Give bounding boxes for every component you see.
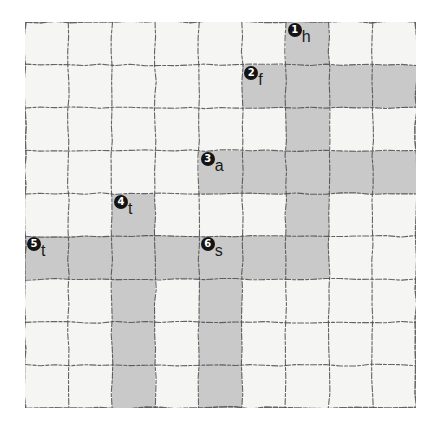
grid-cell-shaded[interactable] (199, 322, 242, 365)
grid-cell-empty[interactable] (25, 108, 68, 151)
grid-cell-shaded[interactable] (329, 65, 372, 108)
grid-cell-empty[interactable] (373, 365, 416, 408)
grid-cell-shaded[interactable] (112, 365, 155, 408)
grid-cell-shaded[interactable] (112, 279, 155, 322)
grid-cell-empty[interactable] (199, 108, 242, 151)
grid-cell-empty[interactable] (329, 22, 372, 65)
grid-cell-empty[interactable] (199, 65, 242, 108)
grid-row (25, 108, 416, 151)
marker-letter: s (215, 243, 223, 259)
grid-cell-shaded[interactable] (155, 236, 198, 279)
grid-cell-empty[interactable] (68, 22, 111, 65)
grid-cell-empty[interactable] (155, 322, 198, 365)
cell-marker-3[interactable]: 3a (201, 152, 224, 174)
grid-cell-shaded[interactable] (373, 65, 416, 108)
grid-cell-empty[interactable] (242, 279, 285, 322)
grid-cell-empty[interactable] (112, 108, 155, 151)
grid-cell-container: 1h2f3a4t5t6s (25, 22, 416, 408)
grid-cell-shaded[interactable] (286, 236, 329, 279)
grid-cell-shaded[interactable]: 5t (25, 236, 68, 279)
marker-letter: a (215, 158, 224, 174)
grid-cell-empty[interactable] (68, 322, 111, 365)
grid-cell-empty[interactable] (199, 194, 242, 237)
grid-board[interactable]: 1h2f3a4t5t6s (25, 22, 416, 408)
grid-cell-empty[interactable] (155, 22, 198, 65)
grid-cell-empty[interactable] (112, 151, 155, 194)
grid-cell-shaded[interactable] (68, 236, 111, 279)
grid-cell-shaded[interactable] (286, 151, 329, 194)
marker-number-badge: 5 (27, 237, 41, 251)
grid-cell-empty[interactable] (373, 322, 416, 365)
marker-number-badge: 4 (114, 195, 128, 209)
grid-cell-empty[interactable] (373, 279, 416, 322)
grid-cell-empty[interactable] (373, 108, 416, 151)
grid-cell-empty[interactable] (155, 151, 198, 194)
grid-cell-empty[interactable] (373, 236, 416, 279)
grid-cell-empty[interactable] (155, 194, 198, 237)
grid-cell-empty[interactable] (286, 365, 329, 408)
grid-cell-shaded[interactable] (242, 151, 285, 194)
grid-row (25, 322, 416, 365)
grid-cell-empty[interactable] (25, 279, 68, 322)
cell-marker-6[interactable]: 6s (201, 237, 223, 259)
marker-letter: t (128, 201, 132, 217)
grid-row (25, 279, 416, 322)
cell-marker-5[interactable]: 5t (27, 237, 45, 259)
grid-cell-empty[interactable] (155, 65, 198, 108)
grid-cell-empty[interactable] (242, 365, 285, 408)
grid-cell-empty[interactable] (68, 365, 111, 408)
grid-cell-empty[interactable] (329, 236, 372, 279)
grid-cell-empty[interactable] (199, 22, 242, 65)
grid-cell-shaded[interactable] (199, 365, 242, 408)
grid-cell-shaded[interactable] (242, 236, 285, 279)
grid-cell-empty[interactable] (329, 322, 372, 365)
grid-cell-shaded[interactable] (112, 322, 155, 365)
cell-marker-1[interactable]: 1h (288, 23, 311, 45)
grid-cell-empty[interactable] (155, 365, 198, 408)
grid-cell-empty[interactable] (329, 365, 372, 408)
grid-cell-empty[interactable] (242, 22, 285, 65)
grid-cell-empty[interactable] (68, 108, 111, 151)
grid-cell-empty[interactable] (25, 365, 68, 408)
grid-cell-empty[interactable] (68, 151, 111, 194)
grid-row: 4t (25, 194, 416, 237)
grid-cell-empty[interactable] (112, 65, 155, 108)
grid-cell-empty[interactable] (286, 322, 329, 365)
grid-cell-empty[interactable] (242, 108, 285, 151)
grid-cell-empty[interactable] (112, 22, 155, 65)
grid-cell-shaded[interactable] (373, 151, 416, 194)
grid-cell-empty[interactable] (68, 65, 111, 108)
grid-cell-empty[interactable] (155, 279, 198, 322)
grid-cell-shaded[interactable] (199, 279, 242, 322)
grid-cell-empty[interactable] (329, 108, 372, 151)
grid-cell-empty[interactable] (68, 194, 111, 237)
grid-cell-empty[interactable] (286, 279, 329, 322)
grid-cell-shaded[interactable]: 3a (199, 151, 242, 194)
grid-cell-shaded[interactable] (286, 108, 329, 151)
grid-cell-shaded[interactable]: 2f (242, 65, 285, 108)
grid-cell-empty[interactable] (25, 194, 68, 237)
grid-cell-empty[interactable] (25, 322, 68, 365)
grid-cell-empty[interactable] (68, 279, 111, 322)
cell-marker-4[interactable]: 4t (114, 195, 132, 217)
grid-cell-shaded[interactable]: 4t (112, 194, 155, 237)
grid-cell-empty[interactable] (329, 279, 372, 322)
grid-cell-empty[interactable] (25, 22, 68, 65)
grid-cell-empty[interactable] (25, 151, 68, 194)
grid-cell-empty[interactable] (242, 194, 285, 237)
grid-cell-shaded[interactable] (112, 236, 155, 279)
cell-marker-2[interactable]: 2f (244, 66, 262, 88)
grid-cell-empty[interactable] (155, 108, 198, 151)
marker-number-badge: 3 (201, 152, 215, 166)
grid-cell-empty[interactable] (373, 194, 416, 237)
grid-cell-empty[interactable] (242, 322, 285, 365)
grid-cell-empty[interactable] (373, 22, 416, 65)
grid-cell-shaded[interactable] (286, 65, 329, 108)
grid-cell-shaded[interactable]: 1h (286, 22, 329, 65)
grid-cell-empty[interactable] (25, 65, 68, 108)
grid-cell-shaded[interactable] (329, 151, 372, 194)
grid-cell-empty[interactable] (329, 194, 372, 237)
grid-cell-shaded[interactable] (286, 194, 329, 237)
grid-cell-shaded[interactable]: 6s (199, 236, 242, 279)
marker-letter: f (258, 72, 262, 88)
